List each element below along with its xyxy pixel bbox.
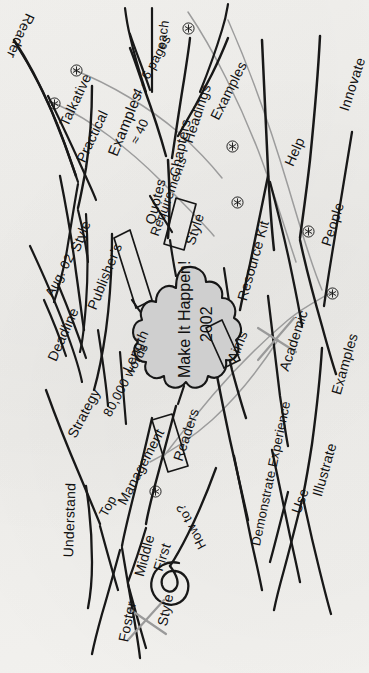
center-title-line1: Make It Happen! [176, 261, 194, 378]
asterisk-marker-icon [302, 225, 315, 238]
asterisk-marker-icon [182, 22, 195, 35]
asterisk-marker-icon [149, 485, 162, 498]
asterisk-marker-icon [226, 140, 239, 153]
asterisk-marker-icon [48, 97, 61, 110]
label-understand: Understand [60, 483, 79, 558]
asterisk-marker-icon [231, 196, 244, 209]
center-title-line2: 2002 [198, 306, 216, 342]
asterisk-marker-icon [326, 287, 339, 300]
mind-map-canvas: Reader Talkative Practical Examples 4 - … [0, 0, 369, 673]
